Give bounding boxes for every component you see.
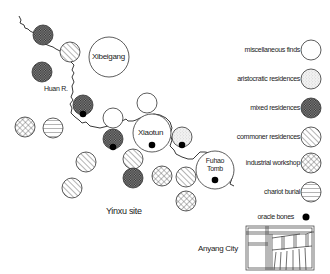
legend-label-oracle: oracle bones: [258, 213, 294, 220]
legend-industrial-icon: [301, 153, 321, 173]
marker-commoner: [60, 42, 80, 62]
legend-label-commoner: commoner residences: [237, 133, 300, 140]
fuhao-line1: Fuhao: [206, 157, 224, 164]
marker-industrial: [176, 191, 196, 211]
legend-chariot-icon: [301, 182, 321, 202]
legend-aristocratic-icon: [301, 69, 321, 89]
legend-label-misc: miscellaneous finds: [245, 46, 300, 53]
legend-label-industrial: industrial workshop: [246, 159, 300, 166]
river-label: Huan R.: [44, 85, 68, 92]
marker-industrial: [15, 117, 35, 137]
marker-industrial: [152, 166, 172, 186]
marker-commoner: [76, 152, 96, 172]
marker-commoner: [62, 178, 82, 198]
marker-misc: [137, 93, 157, 113]
legend-label-aristocratic: aristocratic residences: [237, 75, 300, 82]
legend-commoner-icon: [301, 127, 321, 147]
anyang-city-grid: [246, 226, 314, 270]
city-label: Anyang City: [198, 245, 238, 253]
marker-commoner: [123, 149, 143, 169]
site-label-fuhao-tomb: Fuhao Tomb: [202, 157, 228, 174]
map-title: Yinxu site: [106, 207, 142, 216]
marker-commoner: [176, 167, 196, 187]
legend-oracle-icon: [303, 214, 310, 221]
legend-symbols: [301, 40, 321, 221]
legend-label-chariot: chariot burial: [264, 188, 300, 195]
legend-mixed-icon: [301, 98, 321, 118]
fuhao-line2: Tomb: [207, 165, 223, 172]
legend-label-mixed: mixed residences: [250, 104, 300, 111]
marker-mixed: [33, 25, 53, 45]
legend-misc-icon: [301, 40, 321, 60]
marker-chariot: [43, 118, 63, 138]
marker-misc: [103, 108, 123, 128]
marker-mixed: [32, 62, 52, 82]
marker-mixed: [123, 168, 143, 188]
site-label-xibeigang: Xibeigang: [92, 53, 125, 61]
site-label-xiaotun: Xiaotun: [138, 129, 163, 137]
